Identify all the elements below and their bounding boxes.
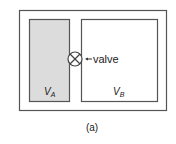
figure-caption: (a)	[86, 122, 98, 133]
valve-label: valve	[93, 53, 119, 65]
diagram-canvas: valve VA VB (a)	[0, 0, 176, 144]
valve-icon	[68, 52, 82, 66]
